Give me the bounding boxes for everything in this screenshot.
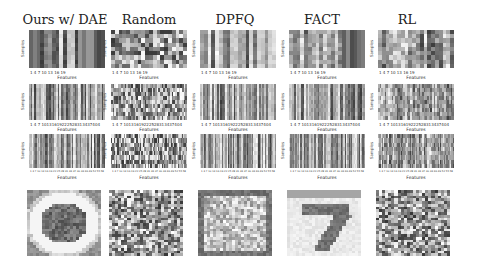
x-axis-label: Features — [200, 127, 276, 132]
heatmap-r1-c3 — [200, 30, 276, 68]
x-axis-label: Features — [378, 75, 454, 80]
y-axis-label: Samples — [20, 40, 25, 57]
column-title-rl: RL — [362, 12, 452, 27]
x-axis-label: Features — [29, 75, 105, 80]
x-axis-label: Features — [29, 127, 105, 132]
x-axis-label: Features — [289, 175, 365, 180]
heatmap-r3-c5 — [378, 134, 454, 168]
heatmap-r2-c1 — [29, 84, 105, 120]
heatmap-r1-c4 — [289, 30, 365, 68]
heatmap-r3-c3 — [200, 134, 276, 168]
y-axis-label: Samples — [102, 93, 107, 110]
y-axis-label: Samples — [102, 142, 107, 159]
column-title-fact: FACT — [277, 12, 367, 27]
column-title-random: Random — [104, 12, 194, 27]
reconstruction-image-c2 — [109, 190, 183, 256]
y-axis-label: Samples — [191, 93, 196, 110]
heatmap-r1-c2 — [111, 30, 187, 68]
x-tick-labels: 1 4 7 10 13 16 19 22 25 28 31 34 37 40 4… — [379, 170, 455, 173]
x-tick-labels: 1 4 7 10 13 16 19 22 25 28 31 34 37 40 4… — [201, 170, 277, 173]
x-axis-label: Features — [289, 75, 365, 80]
x-tick-labels: 1 4 7 10 13 16 19 22 25 28 31 34 37 40 4… — [112, 170, 188, 173]
x-axis-label: Features — [289, 127, 365, 132]
reconstruction-image-c1 — [27, 190, 101, 256]
x-axis-label: Features — [29, 175, 105, 180]
heatmap-r1-c5 — [378, 30, 454, 68]
y-axis-label: Samples — [191, 142, 196, 159]
reconstruction-image-c5 — [376, 190, 450, 256]
x-axis-label: Features — [200, 175, 276, 180]
column-title-ours: Ours w/ DAE — [20, 12, 110, 27]
x-axis-label: Features — [200, 75, 276, 80]
y-axis-label: Samples — [191, 40, 196, 57]
x-axis-label: Features — [378, 175, 454, 180]
heatmap-r3-c1 — [29, 134, 105, 168]
y-axis-label: Samples — [280, 93, 285, 110]
y-axis-label: Samples — [369, 40, 374, 57]
x-axis-label: Features — [111, 127, 187, 132]
y-axis-label: Samples — [20, 93, 25, 110]
heatmap-r2-c5 — [378, 84, 454, 120]
y-axis-label: Samples — [20, 142, 25, 159]
heatmap-r3-c2 — [111, 134, 187, 168]
y-axis-label: Samples — [369, 93, 374, 110]
y-axis-label: Samples — [102, 40, 107, 57]
x-axis-label: Features — [378, 127, 454, 132]
heatmap-r3-c4 — [289, 134, 365, 168]
x-tick-labels: 1 4 7 10 13 16 19 22 25 28 31 34 37 40 4… — [290, 170, 366, 173]
x-tick-labels: 1 4 7 10 13 16 19 22 25 28 31 34 37 40 4… — [30, 170, 106, 173]
heatmap-r2-c4 — [289, 84, 365, 120]
x-axis-label: Features — [111, 175, 187, 180]
heatmap-r2-c3 — [200, 84, 276, 120]
y-axis-label: Samples — [280, 40, 285, 57]
x-axis-label: Features — [111, 75, 187, 80]
column-title-dpfq: DPFQ — [190, 12, 280, 27]
y-axis-label: Samples — [369, 142, 374, 159]
heatmap-r2-c2 — [111, 84, 187, 120]
y-axis-label: Samples — [280, 142, 285, 159]
reconstruction-image-c4 — [287, 190, 361, 256]
heatmap-r1-c1 — [29, 30, 105, 68]
reconstruction-image-c3 — [198, 190, 272, 256]
